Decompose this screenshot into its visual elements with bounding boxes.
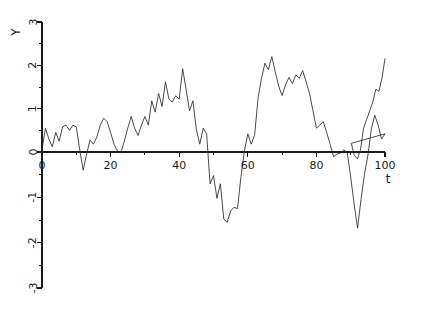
y-tick-label: 0: [27, 149, 40, 156]
x-axis: 020406080100: [39, 152, 396, 172]
y-tick-label: -1: [27, 192, 40, 203]
x-tick-label: 100: [375, 159, 396, 172]
x-tick-label: 0: [39, 159, 46, 172]
x-tick-label: 20: [104, 159, 118, 172]
y-tick-label: 2: [27, 62, 40, 69]
x-axis-title: t: [386, 172, 391, 186]
chart-container: -3-2-10123 020406080100 Y t: [0, 0, 422, 312]
data-series-group: [42, 57, 385, 228]
y-tick-label: -2: [27, 237, 40, 248]
line-chart-plot: -3-2-10123 020406080100 Y t: [0, 0, 422, 312]
y-axis: -3-2-10123: [27, 19, 43, 294]
x-tick-label: 80: [309, 159, 323, 172]
y-tick-label: 3: [27, 19, 40, 26]
y-tick-label: -3: [27, 283, 40, 294]
series-line-y: [42, 57, 385, 228]
y-tick-label: 1: [27, 105, 40, 112]
y-axis-title: Y: [9, 28, 23, 37]
x-tick-label: 40: [172, 159, 186, 172]
